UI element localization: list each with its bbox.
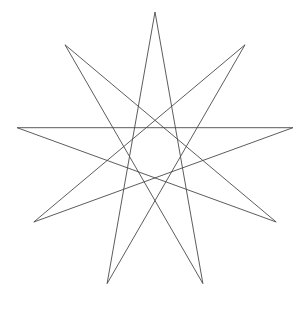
figure-background	[0, 0, 308, 310]
star-polygon-figure	[0, 0, 308, 310]
